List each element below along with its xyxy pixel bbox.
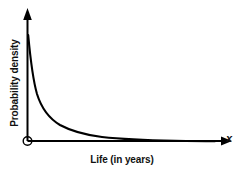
x-axis-variable-label: x: [226, 133, 232, 144]
probability-density-figure: [0, 0, 239, 177]
x-axis-label: Life (in years): [52, 155, 192, 165]
y-axis-label: Probability density: [10, 35, 20, 131]
